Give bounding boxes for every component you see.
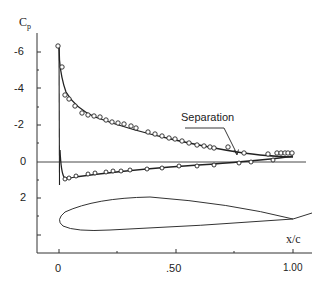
leading-edge-spike <box>59 45 60 185</box>
x-tick-label: 0 <box>55 263 61 274</box>
y-tick-label: -4 <box>14 83 24 94</box>
y-tick-label: 0 <box>20 156 26 167</box>
y-axis-label-sub: p <box>27 22 31 31</box>
x-tick-label: .50 <box>166 263 181 274</box>
axes <box>37 33 312 253</box>
y-tick-label: -2 <box>14 119 24 130</box>
y-tick-label: -6 <box>14 46 24 57</box>
airfoil-profile <box>59 197 312 231</box>
y-tick-label: 2 <box>20 192 26 203</box>
y-axis-label-main: C <box>19 15 27 29</box>
pressure-coefficient-chart <box>0 0 331 284</box>
y-axis-label: Cp <box>19 16 31 31</box>
upper-surface-points <box>56 44 294 156</box>
separation-annotation: Separation <box>181 112 234 123</box>
x-tick-label: 1.00 <box>283 263 302 273</box>
x-axis-label: x/c <box>286 233 301 245</box>
